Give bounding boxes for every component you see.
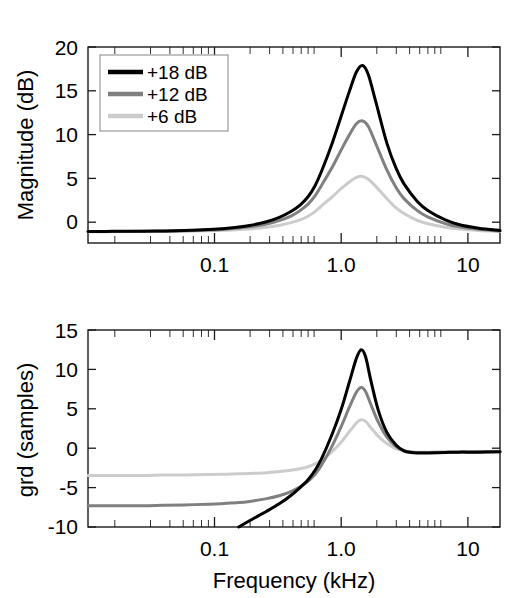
legend-label-18db: +18 dB (147, 62, 208, 83)
grd-ytick-neg5: -5 (59, 476, 78, 499)
magnitude-ytick-15: 15 (55, 79, 78, 102)
group-delay-panel: grd (samples) 15 10 5 0 -5 -10 (0, 300, 526, 598)
grd-axes-frame (88, 330, 500, 527)
grd-x-axis-title: Frequency (kHz) (213, 568, 376, 593)
curve--6-db (88, 420, 500, 476)
grd-ytick-15: 15 (55, 319, 78, 342)
grd-xtick-0.1: 0.1 (200, 537, 229, 560)
legend-label-6db: +6 dB (147, 106, 197, 127)
legend-label-12db: +12 dB (147, 84, 208, 105)
magnitude-ytick-20: 20 (55, 36, 78, 59)
magnitude-xtick-0.1: 0.1 (200, 253, 229, 276)
magnitude-xtick-10: 10 (456, 253, 479, 276)
magnitude-ytick-0: 0 (66, 210, 78, 233)
magnitude-xtick-1.0: 1.0 (327, 253, 356, 276)
curve--12-db (88, 388, 500, 506)
grd-y-axis-title: grd (samples) (13, 363, 38, 497)
group-delay-plot-svg: grd (samples) 15 10 5 0 -5 -10 (0, 300, 526, 598)
magnitude-ytick-10: 10 (55, 123, 78, 146)
grd-x-ticks (115, 330, 468, 527)
grd-ytick-neg10: -10 (48, 515, 78, 538)
grd-ytick-5: 5 (66, 397, 78, 420)
magnitude-y-axis-title: Magnitude (dB) (13, 70, 38, 220)
curve--6-db (88, 176, 500, 231)
grd-xtick-1.0: 1.0 (327, 537, 356, 560)
magnitude-plot-svg: Magnitude (dB) 20 15 10 5 0 (0, 0, 526, 300)
figure-root: Magnitude (dB) 20 15 10 5 0 (0, 0, 526, 598)
grd-ytick-0: 0 (66, 437, 78, 460)
magnitude-ytick-5: 5 (66, 167, 78, 190)
grd-y-ticks (88, 330, 500, 527)
grd-ytick-10: 10 (55, 358, 78, 381)
curve--18-db (239, 350, 500, 527)
magnitude-panel: Magnitude (dB) 20 15 10 5 0 (0, 0, 526, 300)
legend: +18 dB +12 dB +6 dB (100, 55, 228, 131)
grd-curves (88, 350, 500, 527)
grd-xtick-10: 10 (456, 537, 479, 560)
